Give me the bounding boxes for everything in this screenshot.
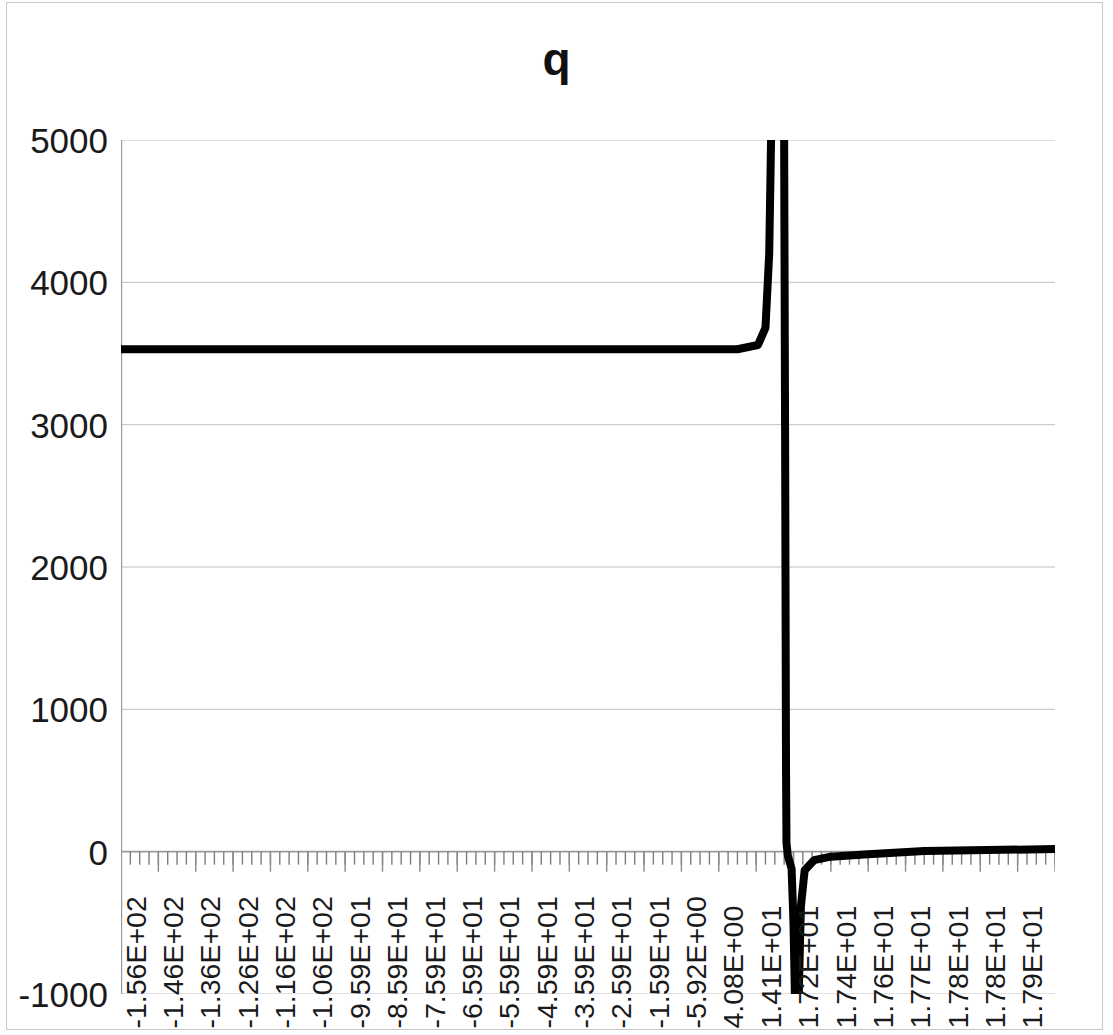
x-axis-tick-label: -1.59E+01 — [644, 896, 673, 1028]
y-axis-tick-labels: 500040003000200010000-1000 — [0, 140, 108, 994]
x-axis-tick-label: -3.59E+01 — [570, 896, 599, 1028]
chart-title: q — [0, 36, 1113, 82]
x-axis-tick-label: -9.59E+01 — [345, 896, 374, 1028]
x-axis-tick-label: 1.41E+01 — [756, 905, 785, 1028]
x-axis-tick-label: 4.08E+00 — [719, 905, 748, 1028]
x-axis-tick-labels: -1.56E+02-1.46E+02-1.36E+02-1.26E+02-1.1… — [121, 868, 1055, 1028]
x-axis-tick-label: 1.78E+01 — [943, 905, 972, 1028]
y-axis-tick-label: 5000 — [4, 123, 108, 158]
x-axis-tick-label: 1.72E+01 — [794, 905, 823, 1028]
x-axis-tick-label: 1.76E+01 — [868, 905, 897, 1028]
x-axis-tick-label: -1.06E+02 — [308, 896, 337, 1028]
chart-container: q 500040003000200010000-1000 -1.56E+02-1… — [0, 0, 1113, 1035]
x-axis-tick-label: -6.59E+01 — [457, 896, 486, 1028]
axis-lines — [121, 140, 122, 994]
x-axis-tick-label: -1.36E+02 — [196, 896, 225, 1028]
gridlines — [121, 140, 1055, 994]
x-axis-tick-label: -5.59E+01 — [495, 896, 524, 1028]
x-axis-tick-label: -1.26E+02 — [233, 896, 262, 1028]
x-axis-tick-label: -8.59E+01 — [383, 896, 412, 1028]
x-axis-tick-label: -7.59E+01 — [420, 896, 449, 1028]
plot-svg — [121, 140, 1055, 994]
y-axis-tick-label: 1000 — [4, 692, 108, 727]
y-axis-tick-label: 4000 — [4, 265, 108, 300]
y-axis-tick-label: 2000 — [4, 550, 108, 585]
y-axis-tick-label: 3000 — [4, 407, 108, 442]
x-axis-tick-label: -4.59E+01 — [532, 896, 561, 1028]
x-axis-tick-label: -5.92E+00 — [682, 896, 711, 1028]
x-axis-tick-label: 1.77E+01 — [906, 905, 935, 1028]
x-axis-tick-label: 1.79E+01 — [1018, 905, 1047, 1028]
x-axis-tick-label: 1.74E+01 — [831, 905, 860, 1028]
x-axis-tick-label: -2.59E+01 — [607, 896, 636, 1028]
x-axis-tick-label: -1.56E+02 — [121, 896, 150, 1028]
x-axis-tick-label: 1.78E+01 — [980, 905, 1009, 1028]
y-axis-tick-label: -1000 — [4, 977, 108, 1012]
x-axis-tick-label: -1.46E+02 — [159, 896, 188, 1028]
y-axis-tick-label: 0 — [4, 834, 108, 869]
x-axis-tick-label: -1.16E+02 — [271, 896, 300, 1028]
plot-area — [121, 140, 1055, 994]
